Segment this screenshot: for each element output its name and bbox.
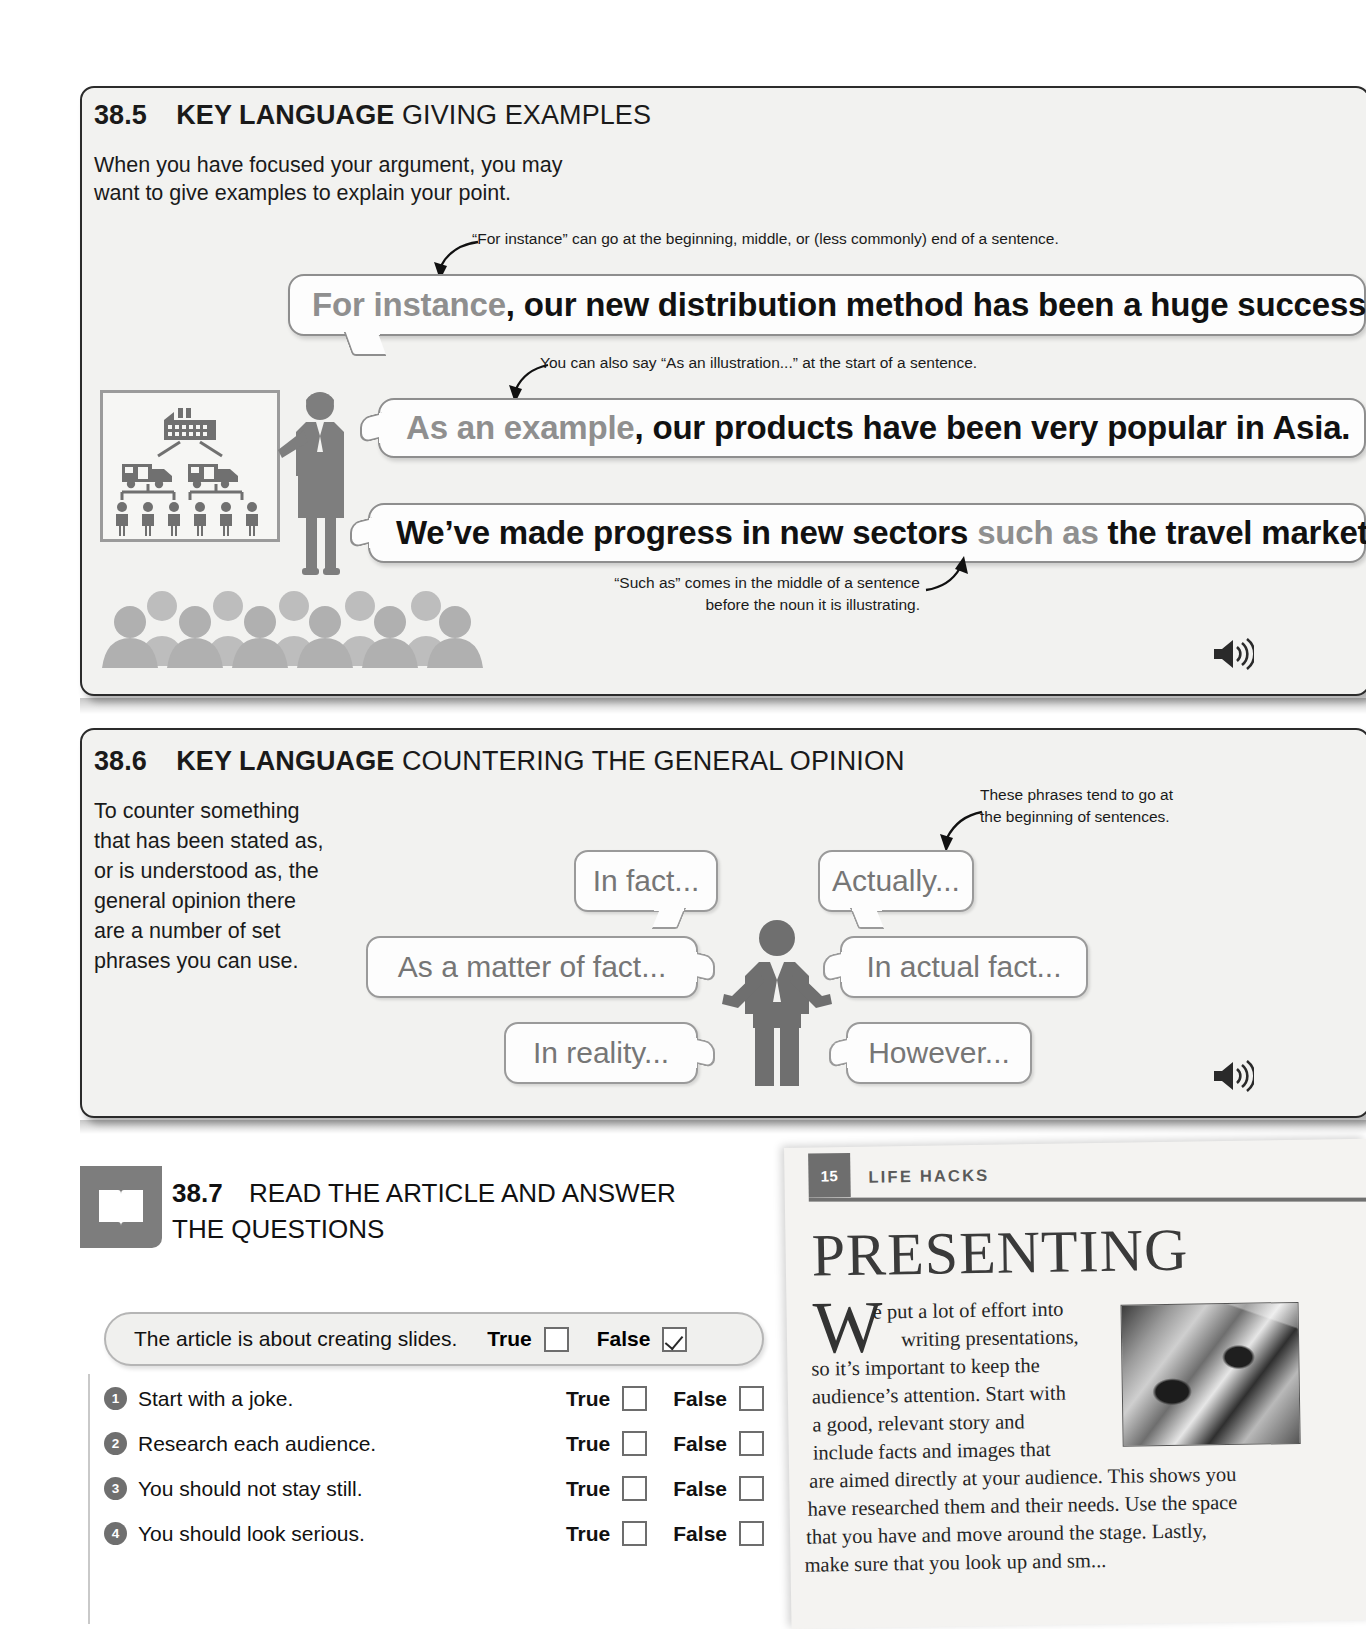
note-such-as-text-1: “Such as” comes in the middle of a sente… bbox=[614, 574, 920, 591]
question-1-true-label: True bbox=[566, 1387, 610, 1411]
bubble-1-tail-cover bbox=[350, 330, 380, 335]
intro-text-1: When you have focused your argument, you… bbox=[94, 153, 562, 177]
question-1-false-label: False bbox=[673, 1387, 727, 1411]
note-phrases-text-2: the beginning of sentences. bbox=[980, 808, 1170, 825]
phrase-bubble-actually: Actually... bbox=[818, 850, 974, 912]
example-question-row: The article is about creating slides. Tr… bbox=[104, 1312, 764, 1366]
question-2-true-checkbox[interactable] bbox=[622, 1431, 647, 1456]
example-2-rest: , our products have been very popular in… bbox=[635, 409, 1351, 446]
note-such-as-line-1: “Such as” comes in the middle of a sente… bbox=[500, 572, 920, 593]
question-3-true-label: True bbox=[566, 1477, 610, 1501]
question-row-1: 1 Start with a joke. True False bbox=[104, 1386, 764, 1411]
question-row-4: 4 You should look serious. True False bbox=[104, 1521, 764, 1546]
article-line-4: audience’s attention. Start with bbox=[812, 1380, 1066, 1411]
question-3-true-checkbox[interactable] bbox=[622, 1476, 647, 1501]
phrase-bubble-actually-tail-cover bbox=[852, 906, 882, 911]
phrase-bubble-actual-tail-cover bbox=[841, 952, 846, 982]
phrase-bubble-however-tail-cover bbox=[847, 1038, 852, 1068]
shrugging-person-icon bbox=[722, 918, 832, 1090]
section-38-7-title-2: THE QUESTIONS bbox=[172, 1214, 384, 1244]
question-4-false-label: False bbox=[673, 1522, 727, 1546]
speaker-icon-38-6[interactable] bbox=[1212, 1060, 1254, 1092]
speaker-icon-38-5[interactable] bbox=[1212, 638, 1254, 670]
phrase-bubble-in-reality-text: In reality... bbox=[533, 1036, 669, 1070]
article-line-7-text: are aimed directly at your audience. Thi… bbox=[809, 1463, 1236, 1492]
article-line-3: so it’s important to keep the bbox=[811, 1352, 1040, 1383]
section-38-7-title-1: READ THE ARTICLE AND ANSWER bbox=[249, 1178, 676, 1208]
phrase-bubble-in-fact-text: In fact... bbox=[593, 864, 700, 898]
example-3-highlight: such as bbox=[977, 514, 1099, 551]
section-38-6-intro-text: To counter something that has been state… bbox=[94, 799, 324, 973]
article-line-9-text: that you have and move around the stage.… bbox=[806, 1519, 1207, 1547]
article-page-badge: 15 bbox=[808, 1153, 851, 1198]
example-bubble-1: For instance, our new distribution metho… bbox=[288, 274, 1366, 336]
section-38-7-number: 38.7 bbox=[172, 1178, 223, 1208]
article-page: 15 LIFE HACKS PRESENTING W e put a lot o… bbox=[784, 1139, 1366, 1629]
phrase-bubble-in-actual-fact: In actual fact... bbox=[840, 936, 1088, 998]
distribution-diagram-icon bbox=[104, 394, 276, 538]
phrase-bubble-in-fact: In fact... bbox=[574, 850, 718, 912]
example-bubble-3: We’ve made progress in new sectors such … bbox=[368, 503, 1366, 563]
example-3-pre: We’ve made progress in new sectors bbox=[396, 514, 977, 551]
question-4-false-checkbox[interactable] bbox=[739, 1521, 764, 1546]
panel-gap-shadow bbox=[80, 698, 1366, 714]
question-4-true-label: True bbox=[566, 1522, 610, 1546]
article-line-8-text: have researched them and their needs. Us… bbox=[807, 1491, 1237, 1520]
question-3-number: 3 bbox=[104, 1477, 127, 1500]
example-2-highlight: As an example bbox=[406, 409, 635, 446]
question-2-false-checkbox[interactable] bbox=[739, 1431, 764, 1456]
textbook-page: 38.5 KEY LANGUAGE GIVING EXAMPLES When y… bbox=[0, 0, 1366, 1629]
article-line-10-text: make sure that you look up and sm... bbox=[804, 1549, 1106, 1576]
phrase-bubble-however-text: However... bbox=[868, 1036, 1010, 1070]
section-38-5-intro-line-2: want to give examples to explain your po… bbox=[94, 178, 511, 208]
panel-gap-shadow-2 bbox=[80, 1120, 1366, 1134]
section-38-5-key-language: KEY LANGUAGE bbox=[176, 100, 394, 130]
section-38-6-heading: 38.6 KEY LANGUAGE COUNTERING THE GENERAL… bbox=[94, 746, 905, 777]
question-3-text: You should not stay still. bbox=[138, 1477, 363, 1501]
example-false-checkbox[interactable] bbox=[662, 1327, 687, 1352]
section-38-7-heading: 38.7 READ THE ARTICLE AND ANSWER bbox=[172, 1176, 676, 1210]
section-38-5-heading: 38.5 KEY LANGUAGE GIVING EXAMPLES bbox=[94, 100, 651, 131]
example-bubble-3-text: We’ve made progress in new sectors such … bbox=[396, 514, 1366, 552]
note-such-as-line-2: before the noun it is illustrating. bbox=[500, 594, 920, 615]
article-line-10: make sure that you look up and sm... bbox=[804, 1547, 1106, 1579]
note-for-instance: “For instance” can go at the beginning, … bbox=[472, 228, 1059, 249]
section-38-6-title: COUNTERING THE GENERAL OPINION bbox=[402, 746, 905, 776]
article-line-6-text: include facts and images that bbox=[813, 1438, 1051, 1464]
question-row-3: 3 You should not stay still. True False bbox=[104, 1476, 764, 1501]
phrase-bubble-as-a-matter-of-fact: As a matter of fact... bbox=[366, 936, 698, 998]
article-photo bbox=[1121, 1302, 1301, 1447]
question-2-false-label: False bbox=[673, 1432, 727, 1456]
question-4-true-checkbox[interactable] bbox=[622, 1521, 647, 1546]
phrase-bubble-however: However... bbox=[846, 1022, 1032, 1084]
example-bubble-2-text: As an example, our products have been ve… bbox=[406, 409, 1350, 447]
note-phrases-position-line-2: the beginning of sentences. bbox=[980, 806, 1170, 827]
note-such-as-text-2: before the noun it is illustrating. bbox=[705, 596, 920, 613]
question-1-true-checkbox[interactable] bbox=[622, 1386, 647, 1411]
question-3-false-checkbox[interactable] bbox=[739, 1476, 764, 1501]
article-line-1: e put a lot of effort into bbox=[872, 1296, 1063, 1326]
article-header-rule bbox=[809, 1198, 1366, 1202]
intro-text-2: want to give examples to explain your po… bbox=[94, 181, 511, 205]
example-true-checkbox[interactable] bbox=[544, 1327, 569, 1352]
article-line-1-text: e put a lot of effort into bbox=[872, 1298, 1063, 1323]
section-38-6-key-language: KEY LANGUAGE bbox=[176, 746, 394, 776]
article-line-6: include facts and images that bbox=[813, 1436, 1051, 1467]
phrase-bubble-actually-text: Actually... bbox=[832, 864, 960, 898]
article-line-2: writing presentations, bbox=[901, 1323, 1079, 1353]
question-1-false-checkbox[interactable] bbox=[739, 1386, 764, 1411]
note-phrases-text-1: These phrases tend to go at bbox=[980, 786, 1173, 803]
section-38-5-intro-line-1: When you have focused your argument, you… bbox=[94, 150, 562, 180]
question-1-number: 1 bbox=[104, 1387, 127, 1410]
phrase-bubble-in-reality: In reality... bbox=[504, 1022, 698, 1084]
note-as-an-illustration: You can also say “As an illustration...”… bbox=[540, 352, 977, 373]
example-question-text: The article is about creating slides. bbox=[134, 1327, 457, 1351]
article-kicker: LIFE HACKS bbox=[868, 1166, 989, 1187]
section-38-6-intro: To counter something that has been state… bbox=[94, 796, 332, 976]
question-2-number: 2 bbox=[104, 1432, 127, 1455]
phrase-bubble-reality-tail-cover bbox=[692, 1038, 697, 1068]
question-4-number: 4 bbox=[104, 1522, 127, 1545]
article-line-5: a good, relevant story and bbox=[812, 1408, 1025, 1439]
note-as-an-illustration-text: You can also say “As an illustration...”… bbox=[540, 354, 977, 371]
question-4-text: You should look serious. bbox=[138, 1522, 365, 1546]
